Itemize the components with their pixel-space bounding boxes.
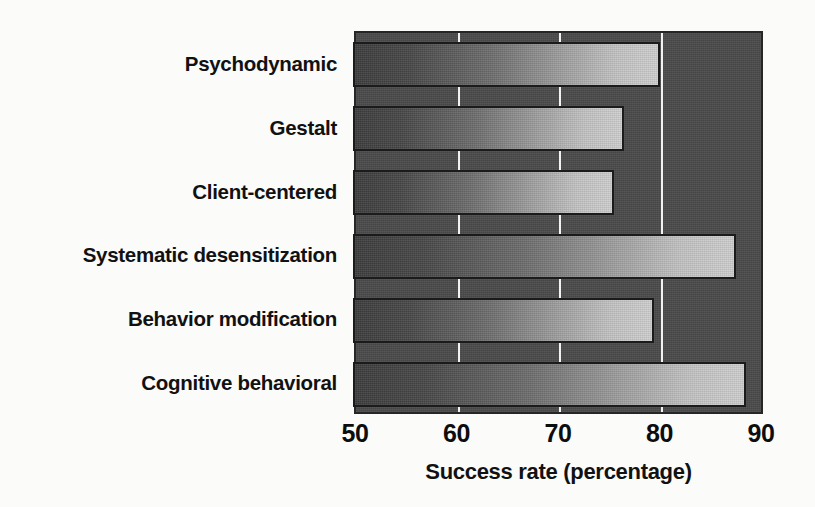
x-tick-label-70: 70 <box>528 419 588 448</box>
category-label: Client-centered <box>0 180 337 204</box>
plot-area <box>354 31 763 414</box>
gridline-80 <box>661 33 663 412</box>
bar-row <box>354 362 763 407</box>
bar[interactable] <box>353 106 624 151</box>
x-axis-title: Success rate (percentage) <box>354 459 763 485</box>
category-label: Systematic desensitization <box>0 243 337 267</box>
category-label: Behavior modification <box>0 307 337 331</box>
bar-row <box>354 170 763 215</box>
gridline-60 <box>458 33 460 412</box>
x-tick-label-90: 90 <box>731 419 791 448</box>
category-label: Gestalt <box>0 116 337 140</box>
category-label: Psychodynamic <box>0 52 337 76</box>
x-tick-label-80: 80 <box>630 419 690 448</box>
chart-page: Success rate (percentage) PsychodynamicG… <box>0 0 815 507</box>
bar[interactable] <box>353 362 746 407</box>
bar[interactable] <box>353 170 614 215</box>
bar-row <box>354 42 763 87</box>
category-label: Cognitive behavioral <box>0 371 337 395</box>
gridline-70 <box>559 33 561 412</box>
bar-row <box>354 106 763 151</box>
bar-row <box>354 234 763 279</box>
x-tick-label-60: 60 <box>427 419 487 448</box>
x-tick-label-50: 50 <box>325 419 385 448</box>
bar[interactable] <box>353 234 736 279</box>
bar-row <box>354 298 763 343</box>
bar[interactable] <box>353 42 660 87</box>
bar[interactable] <box>353 298 654 343</box>
